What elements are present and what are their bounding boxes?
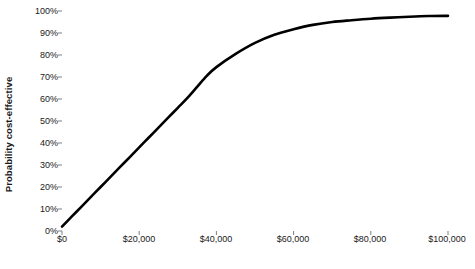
y-tick-label: 100% (24, 6, 58, 16)
y-tick-label: 90% (24, 28, 58, 38)
x-tick-label: $80,000 (354, 234, 387, 244)
y-tick-label: 80% (24, 50, 58, 60)
x-axis-ticks (62, 231, 448, 235)
y-tick-label: 70% (24, 72, 58, 82)
y-axis-title: Probability cost-effective (0, 0, 16, 269)
y-tick-label: 10% (24, 204, 58, 214)
y-axis-tick-labels: 100% 90% 80% 70% 60% 50% 40% 30% 20% 10%… (20, 0, 58, 269)
chart-container: Probability cost-effective 100% 90% 80% … (0, 0, 475, 269)
y-tick-label: 30% (24, 160, 58, 170)
x-tick-label: $40,000 (200, 234, 233, 244)
plot-area (0, 0, 475, 269)
y-tick-label: 50% (24, 116, 58, 126)
y-tick-label: 40% (24, 138, 58, 148)
x-tick-label: $100,000 (428, 234, 466, 244)
y-tick-label: 60% (24, 94, 58, 104)
x-tick-label: $60,000 (277, 234, 310, 244)
x-tick-label: $0 (57, 234, 67, 244)
x-tick-label: $20,000 (123, 234, 156, 244)
y-axis-ticks (58, 11, 62, 231)
cost-effectiveness-curve (62, 16, 448, 227)
y-tick-label: 20% (24, 182, 58, 192)
y-tick-label: 0% (24, 226, 58, 236)
